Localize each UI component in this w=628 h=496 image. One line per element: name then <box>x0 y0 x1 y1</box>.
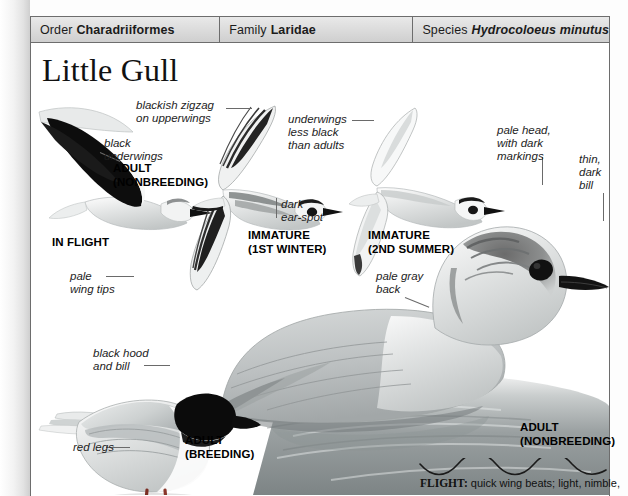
taxonomy-value-family: Laridae <box>271 23 316 37</box>
page-gutter-shadow <box>0 0 30 496</box>
callout-pale-gray-back: pale gray back <box>376 270 423 296</box>
taxonomy-value-species: Hydrocoloeus minutus <box>472 23 609 37</box>
callout-black-underwings: black underwings <box>104 137 163 163</box>
leader-blackish-zigzag <box>226 108 252 109</box>
caption-adult-breeding: ADULT (BREEDING) <box>185 434 254 461</box>
flight-note: FLIGHT: quick wing beats; light, nimble, <box>420 477 620 489</box>
caption-adult-nonbreeding-flight: ADULT (NONBREEDING) <box>113 162 208 189</box>
callout-black-hood-and-bill: black hood and bill <box>93 347 149 373</box>
leader-dark-ear-spot <box>276 198 277 218</box>
flight-wave-icon <box>418 458 610 476</box>
taxonomy-cell-family: Family Laridae <box>219 17 412 42</box>
taxonomy-cell-species: Species Hydrocoloeus minutus <box>412 17 609 42</box>
leader-underwings-less-black <box>352 120 374 121</box>
caption-immature-second-summer: IMMATURE (2ND SUMMER) <box>368 229 454 256</box>
taxonomy-label-family: Family <box>229 23 266 37</box>
caption-immature-first-winter: IMMATURE (1ST WINTER) <box>248 229 327 256</box>
flight-note-label: FLIGHT: <box>420 477 468 489</box>
taxonomy-value-order: Charadriiformes <box>76 23 174 37</box>
taxonomy-label-order: Order <box>40 23 72 37</box>
taxonomy-label-species: Species <box>422 23 467 37</box>
caption-adult-nonbreeding-swimming: ADULT (NONBREEDING) <box>520 421 615 448</box>
flight-note-text: quick wing beats; light, nimble, <box>471 477 620 489</box>
bird-adult-nonbreeding-swimming <box>219 227 609 495</box>
leader-thin-dark-bill <box>603 193 604 221</box>
callout-pale-head: pale head, with dark markings <box>497 124 551 163</box>
field-guide-page: Order Charadriiformes Family Laridae Spe… <box>0 0 628 496</box>
callout-dark-ear-spot: dark ear-spot <box>281 198 323 224</box>
caption-in-flight: IN FLIGHT <box>52 236 109 250</box>
taxonomy-header-bar: Order Charadriiformes Family Laridae Spe… <box>31 17 609 43</box>
callout-underwings-less-black: underwings less black than adults <box>288 113 347 152</box>
callout-blackish-zigzag: blackish zigzag on upperwings <box>136 99 214 125</box>
callout-pale-wing-tips: pale wing tips <box>70 270 115 296</box>
callout-thin-dark-bill: thin, dark bill <box>579 153 601 192</box>
taxonomy-cell-order: Order Charadriiformes <box>31 17 219 42</box>
callout-red-legs: red legs <box>73 441 114 454</box>
